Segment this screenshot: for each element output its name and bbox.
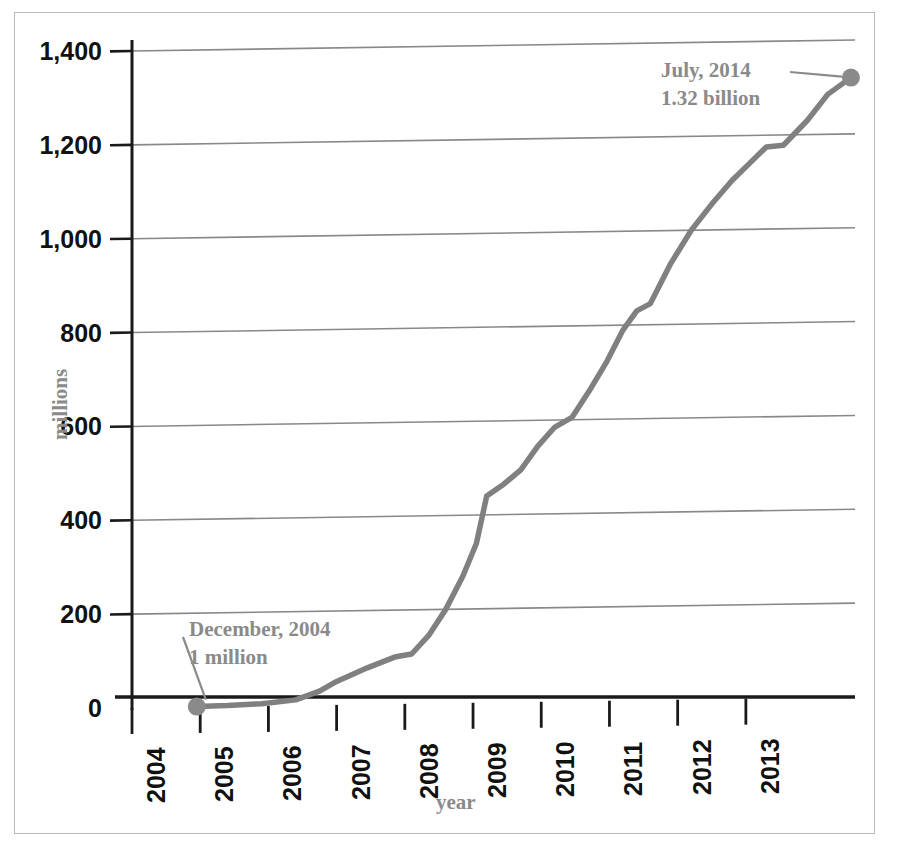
annotation-start-line1: December, 2004 [189,617,331,641]
annotation-end-line1: July, 2014 [661,58,751,82]
x-tick-label: 2009 [483,742,512,798]
y-axis-ticks [110,51,132,614]
x-tick-label: 2006 [278,745,307,801]
gridlines [132,40,855,614]
y-tick-label: 1,200 [0,130,102,159]
annotation-december-2004: December, 2004 1 million [189,616,331,671]
gridline [132,415,855,426]
x-tick-label: 2012 [688,739,717,795]
data-point-marker-end [842,69,860,87]
leader-line-end [790,72,842,77]
gridline [132,603,855,614]
x-tick-label: 2013 [756,738,785,794]
y-tick-label: 1,000 [0,224,102,253]
line-chart: 02004006008001,0001,2001,400 20042005200… [0,0,898,853]
gridline [132,509,855,520]
y-tick-label: 0 [0,694,102,723]
x-axis-title: year [436,790,476,815]
annotation-start-line2: 1 million [189,644,331,672]
gridline [132,40,855,51]
y-axis-title: millions [48,369,73,440]
gridline [132,228,855,239]
gridline [132,322,855,333]
x-tick-label: 2005 [210,746,239,802]
x-tick-label: 2011 [619,741,648,795]
annotation-july-2014: July, 2014 1.32 billion [661,57,760,112]
chart-canvas [0,0,898,853]
y-tick-label: 400 [0,506,102,535]
x-tick-label: 2010 [551,741,580,797]
annotation-end-line2: 1.32 billion [661,85,760,113]
y-tick-label: 200 [0,600,102,629]
x-tick-label: 2004 [142,747,171,803]
gridline [132,134,855,145]
x-tick-label: 2007 [347,744,376,800]
y-tick-label: 1,400 [0,37,102,66]
y-tick-label: 800 [0,318,102,347]
data-point-marker-start [188,698,206,716]
